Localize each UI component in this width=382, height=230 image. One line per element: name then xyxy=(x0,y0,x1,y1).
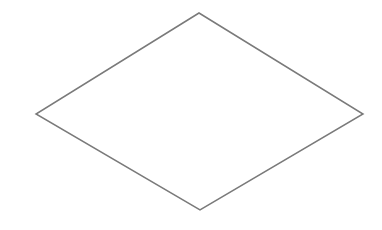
figure-canvas xyxy=(0,0,382,230)
rhombus-shape xyxy=(36,13,363,210)
rhombus-svg xyxy=(0,0,382,230)
